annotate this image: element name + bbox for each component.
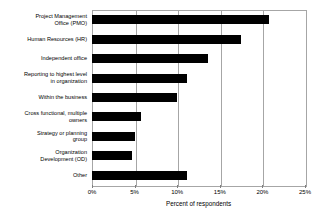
category-label-line: Human Resources (HR) [27, 36, 87, 43]
category-label-line: Organization [40, 149, 87, 156]
bar-row [92, 127, 306, 146]
bar [92, 74, 187, 83]
category-label: Organization Development (OD) [0, 146, 89, 165]
bar [92, 151, 132, 160]
category-label-line: in organization [24, 78, 87, 85]
x-axis-tick [305, 185, 306, 188]
category-label: Cross functional, multiple owners [0, 107, 89, 126]
bar-row [92, 10, 306, 29]
bar [92, 112, 141, 121]
bar-row [92, 107, 306, 126]
x-axis-tick-label: 25% [299, 189, 311, 195]
category-label-line: Office (PMO) [35, 20, 87, 27]
category-label: Project Management Office (PMO) [0, 10, 89, 29]
x-axis-tick-label: 10% [171, 189, 183, 195]
bar-row [92, 146, 306, 165]
category-label: Independent office [0, 49, 89, 68]
bar-row [92, 68, 306, 87]
bar-row [92, 166, 306, 185]
category-label: Reporting to highest level in organizati… [0, 68, 89, 87]
x-axis: 0%5%10%15%20%25% [92, 185, 305, 186]
bar-row [92, 49, 306, 68]
category-label-line: owners [25, 117, 88, 124]
category-label-line: Other [73, 172, 87, 179]
x-axis-title: Percent of respondents [92, 200, 305, 207]
category-label-line: Development (OD) [40, 156, 87, 163]
bars-layer [92, 10, 306, 185]
category-label-line: Project Management [35, 13, 87, 20]
bar [92, 54, 208, 63]
x-axis-tick [177, 185, 178, 188]
category-label-line: Reporting to highest level [24, 71, 87, 78]
x-axis-tick [135, 185, 136, 188]
bar [92, 93, 177, 102]
x-axis-tick-label: 15% [214, 189, 226, 195]
category-axis-labels: Project Management Office (PMO) Human Re… [0, 10, 89, 185]
x-axis-tick [262, 185, 263, 188]
bar [92, 132, 135, 141]
bar [92, 171, 187, 180]
bar-row [92, 88, 306, 107]
category-label-line: Within the business [38, 94, 87, 101]
x-axis-tick-label: 5% [130, 189, 139, 195]
x-axis-tick [220, 185, 221, 188]
bar [92, 35, 241, 44]
x-axis-tick-label: 20% [256, 189, 268, 195]
x-axis-tick-label: 0% [88, 189, 97, 195]
x-axis-tick [92, 185, 93, 188]
category-label-line: Independent office [41, 55, 87, 62]
bar-chart: Project Management Office (PMO) Human Re… [0, 0, 332, 220]
category-label-line: Strategy or planning [37, 130, 87, 137]
category-label: Within the business [0, 88, 89, 107]
bar-row [92, 29, 306, 48]
category-label-line: Cross functional, multiple [25, 110, 88, 117]
category-label: Strategy or planning group [0, 127, 89, 146]
category-label: Other [0, 166, 89, 185]
category-label-line: group [37, 136, 87, 143]
bar [92, 15, 269, 24]
category-label: Human Resources (HR) [0, 29, 89, 48]
